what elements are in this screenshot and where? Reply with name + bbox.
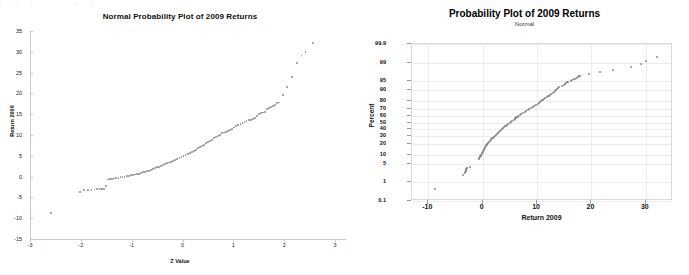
right-grid-line-horizontal <box>412 155 671 156</box>
right-grid-line-vertical <box>646 44 647 199</box>
right-x-tick-label: 10 <box>532 203 540 210</box>
right-y-tick-mark <box>407 154 411 155</box>
right-grid-line-horizontal <box>412 44 671 45</box>
left-x-tick-mark <box>335 239 336 242</box>
right-grid-line-horizontal <box>412 123 671 124</box>
right-grid-line-horizontal <box>412 201 671 202</box>
right-x-tick-mark <box>482 200 483 204</box>
right-x-tick-label: 30 <box>641 203 649 210</box>
left-chart-title: Normal Probability Plot of 2009 Returns <box>0 12 360 21</box>
left-x-tick-label: 0 <box>181 242 184 248</box>
left-data-point <box>103 188 105 190</box>
right-y-tick-label: 10 <box>366 151 386 157</box>
right-grid-line-horizontal <box>412 144 671 145</box>
left-data-point <box>278 102 280 104</box>
right-x-tick-mark <box>536 200 537 204</box>
right-x-tick-label: 0 <box>480 203 484 210</box>
left-data-point <box>79 191 81 193</box>
left-scatter-area <box>30 31 335 237</box>
right-plot-frame <box>411 43 672 200</box>
right-y-tick-mark <box>407 80 411 81</box>
right-y-tick-mark <box>407 163 411 164</box>
right-y-tick-mark <box>407 108 411 109</box>
right-y-tick-mark <box>407 135 411 136</box>
right-y-tick-label: 20 <box>366 140 386 146</box>
left-data-point <box>282 94 284 96</box>
right-y-tick-label: 5 <box>366 160 386 166</box>
left-data-point <box>231 128 233 130</box>
right-data-point <box>656 56 658 58</box>
right-grid-line-horizontal <box>412 129 671 130</box>
right-grid-line-horizontal <box>412 63 671 64</box>
left-data-point <box>305 51 307 53</box>
left-data-point <box>256 115 258 117</box>
left-x-tick-label: -2 <box>78 242 83 248</box>
right-data-point <box>612 69 614 71</box>
left-data-point <box>296 62 298 64</box>
left-data-point <box>312 42 314 44</box>
right-grid-line-horizontal <box>412 90 671 91</box>
right-y-tick-mark <box>407 62 411 63</box>
right-y-tick-label: 99 <box>366 59 386 65</box>
left-x-tick-label: -1 <box>129 242 134 248</box>
right-y-axis-label: Percent <box>368 91 375 141</box>
left-data-point <box>264 111 266 113</box>
right-y-tick-mark <box>407 122 411 123</box>
normal-probability-plot-panel: Normal Probability Plot of 2009 Returns … <box>0 0 360 275</box>
right-x-axis-label: Return 2009 <box>411 214 672 221</box>
left-data-point <box>91 189 93 191</box>
right-grid-line-vertical <box>483 44 484 199</box>
left-y-tick-label: -5 <box>0 194 22 200</box>
left-x-tick-label: 2 <box>283 242 286 248</box>
right-grid-line-horizontal <box>412 182 671 183</box>
right-y-tick-mark <box>407 115 411 116</box>
left-data-point <box>96 188 98 190</box>
right-x-tick-label: -10 <box>422 203 432 210</box>
right-grid-line-vertical <box>537 44 538 199</box>
right-x-tick-mark <box>645 200 646 204</box>
left-x-axis-label: Z Value <box>0 258 360 264</box>
left-y-tick-label: -10 <box>0 215 22 221</box>
right-y-tick-label: 99.9 <box>366 40 386 46</box>
left-data-point <box>83 189 85 191</box>
right-grid-line-horizontal <box>412 81 671 82</box>
right-chart-subtitle: Normal <box>360 21 689 27</box>
left-x-tick-label: -3 <box>28 242 33 248</box>
left-x-tick-mark <box>183 239 184 242</box>
right-y-tick-label: 95 <box>366 77 386 83</box>
left-y-axis-label: Return 2009 <box>9 91 15 151</box>
left-y-tick-label: 25 <box>0 70 22 76</box>
left-x-tick-mark <box>284 239 285 242</box>
right-data-point <box>599 71 601 73</box>
right-y-tick-mark <box>407 128 411 129</box>
left-data-point <box>50 212 52 214</box>
right-y-tick-mark <box>407 100 411 101</box>
left-y-tick-label: -15 <box>0 236 22 242</box>
right-chart-title: Probability Plot of 2009 Returns <box>360 8 689 19</box>
right-grid-line-horizontal <box>412 116 671 117</box>
right-y-tick-mark <box>407 200 411 201</box>
left-data-point <box>301 55 303 57</box>
right-data-point <box>588 73 590 75</box>
right-y-tick-mark <box>407 143 411 144</box>
left-data-point <box>291 76 293 78</box>
right-data-point <box>434 188 436 190</box>
left-y-tick-label: 35 <box>0 28 22 34</box>
left-y-tick-label: 5 <box>0 153 22 159</box>
left-data-point <box>254 117 256 119</box>
right-data-point <box>466 167 468 169</box>
right-y-tick-mark <box>407 181 411 182</box>
right-data-point <box>578 75 580 77</box>
right-data-point <box>630 66 632 68</box>
left-x-tick-mark <box>132 239 133 242</box>
right-x-tick-label: 20 <box>587 203 595 210</box>
right-data-point <box>566 81 568 83</box>
right-grid-line-vertical <box>428 44 429 199</box>
left-x-axis-line <box>30 239 346 240</box>
left-data-point <box>203 144 205 146</box>
right-grid-line-horizontal <box>412 136 671 137</box>
right-grid-line-horizontal <box>412 109 671 110</box>
right-y-tick-label: 0.1 <box>366 197 386 203</box>
right-y-tick-mark <box>407 89 411 90</box>
left-x-tick-label: 1 <box>232 242 235 248</box>
